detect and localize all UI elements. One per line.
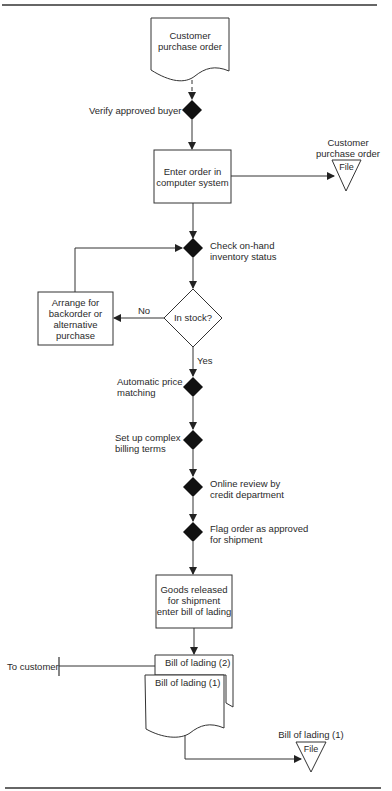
- label-line: billing terms: [115, 443, 180, 454]
- label-file-po: Customer purchase order: [310, 137, 386, 159]
- label-line: purchase order: [310, 148, 386, 159]
- label-customer-po: Customer purchase order: [151, 30, 229, 52]
- label-line: matching: [117, 387, 182, 398]
- label-line: backorder or: [38, 308, 113, 319]
- label-file-bill: Bill of lading (1): [276, 729, 346, 740]
- label-line: alternative: [38, 319, 113, 330]
- label-line: Flag order as approved: [210, 523, 308, 534]
- label-line: Customer: [151, 30, 229, 41]
- diamond-flag-order: [183, 522, 203, 542]
- label-backorder: Arrange for backorder or alternative pur…: [38, 297, 113, 341]
- diamond-verify: [182, 100, 202, 120]
- label-flag-order: Flag order as approved for shipment: [210, 523, 308, 545]
- file-bill-text: File: [296, 744, 326, 755]
- label-line: Online review by: [210, 478, 284, 489]
- label-credit-review: Online review by credit department: [210, 478, 284, 500]
- diamond-price-matching: [183, 377, 203, 397]
- label-bill-2: Bill of lading (2): [165, 657, 230, 668]
- label-line: Enter order in: [154, 166, 231, 177]
- label-line: Set up complex: [115, 432, 180, 443]
- diamond-credit-review: [183, 477, 203, 497]
- label-in-stock: In stock?: [164, 312, 222, 323]
- label-line: Goods released: [156, 584, 232, 595]
- label-enter-order: Enter order in computer system: [154, 166, 231, 188]
- label-line: purchase order: [151, 41, 229, 52]
- label-line: Arrange for: [38, 297, 113, 308]
- edge-label-no: No: [138, 305, 150, 316]
- label-verify-buyer: Verify approved buyer: [89, 105, 181, 116]
- label-line: inventory status: [210, 251, 277, 262]
- label-line: credit department: [210, 489, 284, 500]
- label-line: computer system: [154, 177, 231, 188]
- label-goods-released: Goods released for shipment enter bill o…: [156, 584, 232, 617]
- label-line: enter bill of lading: [156, 606, 232, 617]
- label-line: for shipment: [210, 534, 308, 545]
- label-line: for shipment: [156, 595, 232, 606]
- label-line: purchase: [38, 330, 113, 341]
- edge-label-yes: Yes: [197, 355, 213, 366]
- label-bill-1: Bill of lading (1): [155, 677, 220, 688]
- label-line: Customer: [310, 137, 386, 148]
- label-check-inventory: Check on-hand inventory status: [210, 240, 277, 262]
- diamond-billing-terms: [183, 430, 203, 450]
- diamond-check-inventory: [183, 238, 203, 258]
- label-price-matching: Automatic price matching: [117, 376, 182, 398]
- flowchart-canvas: [0, 0, 392, 791]
- label-line: Automatic price: [117, 376, 182, 387]
- label-to-customer: To customer: [7, 661, 59, 672]
- label-line: Check on-hand: [210, 240, 277, 251]
- label-billing-terms: Set up complex billing terms: [115, 432, 180, 454]
- file-po-text: File: [332, 162, 361, 173]
